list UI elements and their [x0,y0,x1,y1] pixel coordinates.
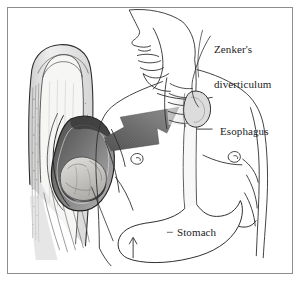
label-zenkers-diverticulum: Zenker's diverticulum [214,21,271,113]
label-food-line1: Food lodged [71,273,140,274]
label-stomach: Stomach [177,227,216,239]
esophagus-tube [183,123,196,208]
figure-root: Zenker's diverticulum Esophagus Stomach … [0,0,302,283]
figure-frame: Zenker's diverticulum Esophagus Stomach … [7,7,293,274]
label-zenkers-line2: diverticulum [214,79,271,91]
label-zenkers-line1: Zenker's [214,44,271,56]
label-food-lodged: Food lodged in diverticulum [71,250,140,274]
food-bolus [60,157,106,201]
diverticulum-pouch [183,91,210,127]
label-esophagus: Esophagus [220,126,269,138]
